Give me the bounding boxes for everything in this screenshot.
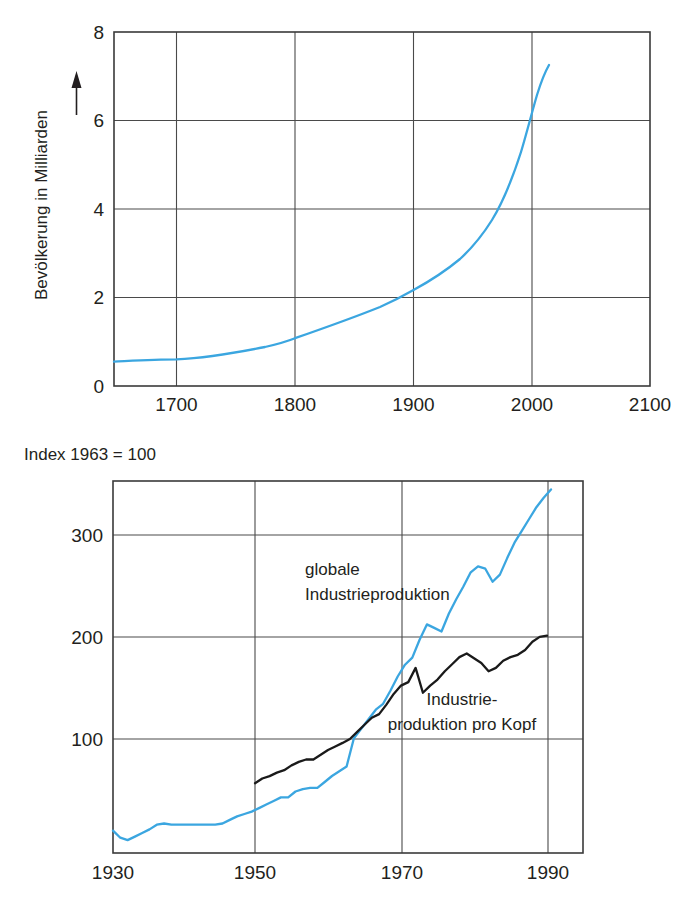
x-tick-1970: 1970 — [381, 862, 423, 883]
y-tick-4: 4 — [93, 199, 104, 220]
x-tick-1950: 1950 — [234, 862, 276, 883]
chart-population-svg: 8 6 4 2 0 1700 1800 1900 2000 2100 Bevöl… — [0, 0, 691, 420]
y-axis-up-arrow-icon — [72, 71, 82, 115]
per-capita-label-line1: Industrie- — [427, 690, 498, 709]
x-tick-2000: 2000 — [511, 394, 553, 415]
industrial-x-tick-labels: 1930 1950 1970 1990 — [92, 862, 569, 883]
y-tick-2: 2 — [93, 287, 104, 308]
population-series-line — [114, 65, 549, 362]
y-tick-300: 300 — [71, 525, 103, 546]
industrial-y-tick-labels: 300 200 100 — [71, 525, 103, 750]
y-tick-0: 0 — [93, 376, 104, 397]
per-capita-industrial-series-line — [255, 636, 547, 784]
y-tick-6: 6 — [93, 110, 104, 131]
global-industrial-label-line1: globale — [305, 560, 360, 579]
y-tick-200: 200 — [71, 627, 103, 648]
y-tick-100: 100 — [71, 729, 103, 750]
x-tick-1990: 1990 — [527, 862, 569, 883]
population-x-tick-labels: 1700 1800 1900 2000 2100 — [155, 394, 671, 415]
chart-industrial-production: Index 1963 = 100 globale Industrieproduk… — [0, 420, 691, 921]
x-tick-2100: 2100 — [629, 394, 671, 415]
global-industrial-label: globale Industrieproduktion — [305, 560, 450, 604]
global-industrial-label-line2: Industrieproduktion — [305, 585, 450, 604]
population-gridlines — [114, 32, 650, 386]
y-tick-8: 8 — [93, 22, 104, 43]
chart-population: 8 6 4 2 0 1700 1800 1900 2000 2100 Bevöl… — [0, 0, 691, 420]
population-y-axis-title: Bevölkerung in Milliarden — [32, 110, 51, 300]
industrial-gridlines — [113, 481, 583, 853]
figure-root: 8 6 4 2 0 1700 1800 1900 2000 2100 Bevöl… — [0, 0, 691, 921]
global-industrial-series-line — [113, 489, 551, 840]
x-tick-1700: 1700 — [155, 394, 197, 415]
per-capita-label: Industrie- produktion pro Kopf — [388, 690, 537, 734]
x-tick-1800: 1800 — [274, 394, 316, 415]
x-tick-1930: 1930 — [92, 862, 134, 883]
industrial-plot-frame — [113, 481, 583, 853]
index-base-note: Index 1963 = 100 — [24, 445, 156, 464]
population-y-tick-labels: 8 6 4 2 0 — [93, 22, 104, 397]
chart-industrial-svg: Index 1963 = 100 globale Industrieproduk… — [0, 420, 691, 921]
x-tick-1900: 1900 — [392, 394, 434, 415]
per-capita-label-line2: produktion pro Kopf — [388, 715, 537, 734]
